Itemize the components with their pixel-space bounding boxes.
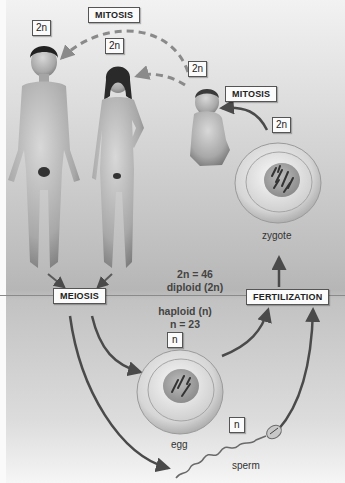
- egg-cell: [137, 350, 223, 434]
- illustration-layer: [0, 0, 345, 483]
- arrow-meiosis-to-egg: [92, 316, 140, 372]
- egg-ploidy-label: n: [167, 332, 183, 348]
- diploid-count: 2n = 46: [155, 268, 235, 281]
- woman-figure: [92, 67, 144, 269]
- life-cycle-diagram: 2n 2n 2n 2n n n MITOSIS MITOSIS MEIOSIS …: [0, 0, 345, 483]
- man-figure: [8, 46, 80, 268]
- mitosis-label-top: MITOSIS: [88, 7, 140, 23]
- mitosis-label-zygote: MITOSIS: [225, 86, 277, 102]
- diploid-label: diploid (2n): [155, 281, 235, 294]
- woman-ploidy-label: 2n: [105, 38, 124, 54]
- sperm-caption: sperm: [232, 460, 260, 471]
- man-ploidy-label: 2n: [32, 20, 51, 36]
- sperm-ploidy-label: n: [229, 417, 245, 433]
- zygote-ploidy-label: 2n: [272, 117, 291, 133]
- haploid-count: n = 23: [145, 318, 225, 331]
- fertilization-label: FERTILIZATION: [246, 289, 329, 305]
- arrow-egg-to-fertilization: [222, 310, 268, 356]
- zygote-caption: zygote: [262, 230, 291, 241]
- arrow-man-to-meiosis: [48, 274, 64, 287]
- egg-caption: egg: [171, 439, 188, 450]
- haploid-label: haploid (n): [145, 305, 225, 318]
- zygote-cell: [235, 143, 321, 223]
- diploid-region-text: 2n = 46 diploid (2n): [155, 268, 235, 294]
- baby-ploidy-label: 2n: [188, 61, 207, 77]
- meiosis-label: MEIOSIS: [53, 288, 106, 304]
- baby-figure: [190, 89, 230, 166]
- arrow-woman-to-meiosis: [98, 274, 112, 287]
- haploid-region-text: haploid (n) n = 23: [145, 305, 225, 331]
- mitosis-arrow-zygote-to-baby: [222, 108, 267, 130]
- arrow-sperm-to-fertilization: [278, 310, 313, 430]
